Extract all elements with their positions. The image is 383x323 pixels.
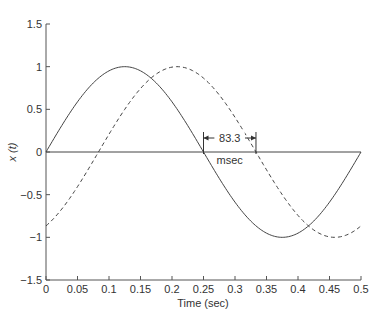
x-tick-label: 0.05 xyxy=(67,283,88,295)
y-tick-label: 0.5 xyxy=(27,103,42,115)
x-tick-label: 0.3 xyxy=(227,283,242,295)
x-tick-label: 0.25 xyxy=(193,283,214,295)
arrow-right-head-icon xyxy=(251,136,256,141)
y-tick-label: −1 xyxy=(29,231,42,243)
annotation-unit: msec xyxy=(217,154,244,166)
x-tick-label: 0 xyxy=(43,283,49,295)
y-tick-label: 1 xyxy=(36,61,42,73)
x-axis-label: Time (sec) xyxy=(177,297,229,309)
y-tick-label: −0.5 xyxy=(20,189,42,201)
x-tick-label: 0.4 xyxy=(290,283,305,295)
arrow-left-head-icon xyxy=(204,136,209,141)
y-tick-label: −1.5 xyxy=(20,274,42,286)
x-tick-label: 0.5 xyxy=(353,283,368,295)
y-tick-label: 0 xyxy=(36,146,42,158)
y-axis-label: x (t) xyxy=(6,142,18,162)
axes: 00.050.10.150.20.250.30.350.40.450.51.51… xyxy=(20,18,368,295)
svg-text:x (t): x (t) xyxy=(6,142,18,162)
annotation-value: 83.3 xyxy=(219,132,240,144)
x-tick-label: 0.15 xyxy=(130,283,151,295)
x-tick-label: 0.1 xyxy=(101,283,116,295)
line-chart: 00.050.10.150.20.250.30.350.40.450.51.51… xyxy=(0,0,383,323)
y-tick-label: 1.5 xyxy=(27,18,42,30)
x-tick-label: 0.35 xyxy=(256,283,277,295)
x-tick-label: 0.2 xyxy=(164,283,179,295)
x-tick-label: 0.45 xyxy=(319,283,340,295)
delay-annotation: 83.3msec xyxy=(204,131,256,166)
